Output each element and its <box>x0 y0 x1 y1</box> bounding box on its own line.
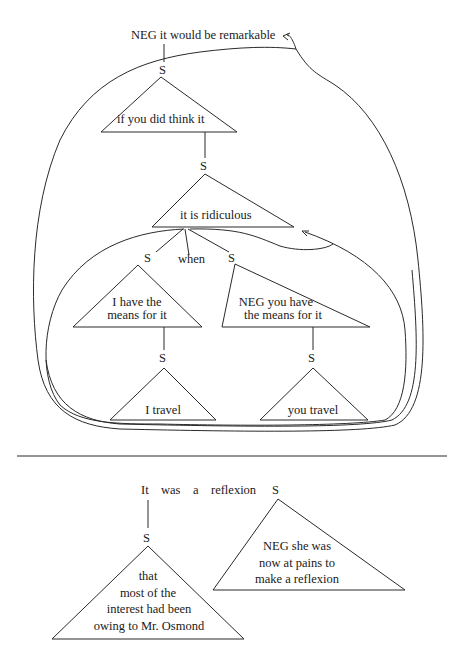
bottom-triangle-left-line-2: most of the <box>120 586 177 600</box>
node-s-left-lower: S <box>159 351 166 365</box>
triangle-right-lower-text: you travel <box>288 403 339 417</box>
triangle-right-line-1: NEG you have <box>239 295 314 309</box>
bottom-node-s-left: S <box>143 531 150 545</box>
branch-left <box>156 229 183 252</box>
head-s: S <box>272 483 279 497</box>
branch-left-s: S <box>144 251 151 265</box>
branch-when-label: when <box>178 252 206 266</box>
triangle-right-line-2: the means for it <box>244 308 323 322</box>
head-word-was: was <box>161 483 181 497</box>
ridiculous-return-curve <box>190 229 333 250</box>
bottom-triangle-left-line-4: owing to Mr. Osmond <box>94 619 205 633</box>
diagram-canvas: NEG it would be remarkable S if you did … <box>0 0 472 659</box>
head-word-a: a <box>193 483 199 497</box>
branch-right <box>188 229 229 252</box>
head-word-reflexion: reflexion <box>211 483 257 497</box>
bottom-triangle-right-line-1: NEG she was <box>263 539 331 553</box>
triangle-left-line-2: means for it <box>107 308 167 322</box>
branch-right-s: S <box>228 251 235 265</box>
triangle-1-text: if you did think it <box>117 112 205 126</box>
outer-movement-curve-inner <box>46 270 416 426</box>
triangle-2-text: it is ridiculous <box>180 208 252 222</box>
node-s-1: S <box>159 63 166 77</box>
bottom-triangle-right-line-3: make a reflexion <box>255 572 340 586</box>
top-diagram: NEG it would be remarkable S if you did … <box>33 28 423 431</box>
bottom-triangle-left-line-3: interest had been <box>107 602 192 616</box>
syntax-tree-figure: NEG it would be remarkable S if you did … <box>0 0 472 659</box>
node-s-right-lower: S <box>308 351 315 365</box>
head-word-it: It <box>141 483 149 497</box>
outer-movement-curve <box>33 34 423 431</box>
node-s-2: S <box>200 159 207 173</box>
bottom-triangle-left-line-1: that <box>139 569 158 583</box>
bottom-triangle-right-line-2: now at pains to <box>259 556 335 570</box>
triangle-left-lower-text: I travel <box>145 403 181 417</box>
root-label: NEG it would be remarkable <box>131 28 276 42</box>
bottom-diagram: It was a reflexion S S that most of the … <box>52 483 405 639</box>
triangle-left-line-1: I have the <box>112 295 162 309</box>
